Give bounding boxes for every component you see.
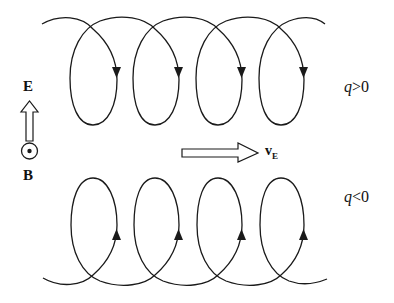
arrow-down-icon: [237, 67, 246, 78]
positive-charge-direction-arrows: [112, 67, 308, 78]
drift-velocity-arrow-icon: [182, 143, 258, 162]
negative-charge-label: q<0: [344, 188, 369, 206]
electric-field-label: E: [23, 78, 33, 95]
negative-charge-direction-arrows: [112, 229, 308, 240]
arrow-up-icon: [237, 229, 246, 240]
arrow-down-icon: [112, 67, 121, 78]
magnetic-field-out-of-page-icon: [22, 143, 38, 159]
drift-velocity-symbol: v: [265, 143, 272, 158]
charge-condition: <0: [352, 188, 369, 205]
arrow-up-icon: [299, 229, 308, 240]
charge-symbol: q: [344, 78, 352, 95]
arrow-down-icon: [299, 67, 308, 78]
negative-charge-trajectory: [43, 178, 327, 285]
positive-charge-label: q>0: [344, 78, 369, 96]
arrow-up-icon: [112, 229, 121, 240]
arrow-up-icon: [174, 229, 183, 240]
positive-charge-trajectory: [42, 17, 325, 125]
magnetic-field-label: B: [23, 167, 33, 184]
arrow-down-icon: [174, 67, 183, 78]
diagram-canvas: [0, 0, 394, 303]
charge-symbol: q: [344, 188, 352, 205]
charge-condition: >0: [352, 78, 369, 95]
electric-field-arrow-icon: [21, 101, 38, 141]
drift-velocity-subscript: E: [272, 151, 278, 161]
drift-velocity-label: vE: [265, 143, 278, 161]
